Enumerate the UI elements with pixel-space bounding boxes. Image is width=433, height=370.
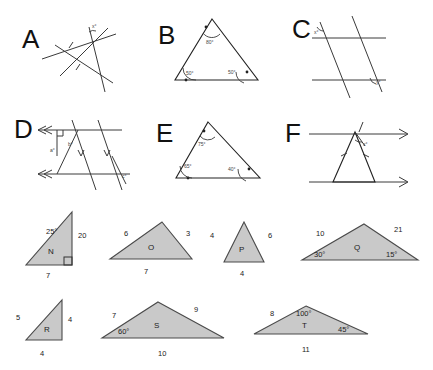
triangle-O-figure: 6 3 7 O [100,212,210,280]
triangle-T-figure: 8 100° 45° 11 T [240,292,380,364]
triangle-Q: 10 21 30° 15° Q [288,212,433,280]
diagram-B-angle-bottom-left: 50° [186,70,194,76]
triangle-N-angle-top: 25° [46,227,57,236]
worksheet-canvas: A x° B 80° 50 [0,0,433,370]
diagram-D-letter: D [14,116,33,142]
triangle-S-figure: 7 9 60° 10 S [96,292,232,364]
diagram-B-figure: 80° 50° 50° [150,0,290,108]
diagram-D-angle-left: a° [50,147,55,153]
diagram-B-angle-apex: 80° [206,39,214,45]
diagram-D: D a° b° c° [0,106,150,206]
triangle-R-figure: 5 4 4 R [14,288,98,364]
triangle-R-side-right: 4 [68,315,72,324]
triangle-S-side-right: 9 [194,305,198,314]
triangle-P-side-right: 6 [268,231,272,240]
diagram-F-figure: x° [285,106,433,206]
triangle-T-side-left: 8 [270,309,274,318]
diagram-C-angle-upper-left: x° [314,29,319,35]
triangle-Q-side-left: 10 [316,229,324,238]
diagram-E-angle-apex: 75° [198,141,206,147]
triangle-T: 8 100° 45° 11 T [240,292,380,364]
triangle-O-side-bottom: 7 [144,267,148,276]
triangle-Q-side-right: 21 [394,225,402,234]
triangle-S-label: S [154,321,159,330]
triangle-T-side-bottom: 11 [302,345,310,354]
diagram-D-angle-lower-right: c° [122,173,127,179]
diagram-A-letter: A [22,26,39,52]
triangle-T-angle-apex: 100° [296,309,312,318]
triangle-O-side-right: 3 [186,229,190,238]
triangle-R-label: R [44,325,50,334]
triangle-P-label: P [239,245,244,254]
diagram-E-letter: E [156,120,173,146]
triangle-S-angle-bottom-left: 60° [118,327,129,336]
diagram-B-letter: B [158,22,175,48]
diagram-E-angle-bottom-left: 65° [184,163,192,169]
triangle-R-side-bottom: 4 [40,349,44,358]
triangle-S: 7 9 60° 10 S [96,292,232,364]
triangle-Q-label: Q [354,243,360,252]
triangle-P-side-left: 4 [210,231,214,240]
triangle-Q-angle-bottom-left: 30° [314,250,325,259]
diagram-B: B 80° 50° 50° [150,0,290,108]
triangle-N-figure: 25° 20 7 N [18,208,104,280]
diagram-A-angle-x: x° [92,23,97,29]
triangle-N: 25° 20 7 N [18,208,104,280]
diagram-B-angle-bottom-right: 50° [228,69,236,75]
triangle-Q-figure: 10 21 30° 15° Q [288,212,433,280]
triangle-O-label: O [148,243,154,252]
triangle-N-side-bottom: 7 [46,271,50,280]
diagram-F-angle-apex: x° [363,141,368,147]
diagram-A-figure: x° [0,0,150,108]
diagram-C: C x° y° [290,0,433,108]
diagram-C-figure: x° y° [290,0,433,108]
triangle-N-side-right: 20 [78,231,86,240]
triangle-T-label: T [302,321,307,330]
triangle-S-side-left: 7 [112,311,116,320]
diagram-E: E 75° 65° 40° [150,106,290,206]
triangle-T-angle-bottom-right: 45° [338,325,349,334]
triangle-R-side-left: 5 [16,313,20,322]
triangle-P-side-bottom: 4 [240,269,244,278]
triangle-P-figure: 4 6 4 P [202,214,282,282]
diagram-C-letter: C [292,16,311,42]
diagram-E-angle-bottom-right: 40° [228,166,236,172]
triangle-P: 4 6 4 P [202,214,282,282]
triangle-O: 6 3 7 O [100,212,210,280]
diagram-F: F x° [285,106,433,206]
triangle-S-side-bottom: 10 [158,349,166,358]
diagram-F-letter: F [285,120,301,146]
triangle-R: 5 4 4 R [14,288,98,364]
triangle-O-side-left: 6 [124,229,128,238]
triangle-N-label: N [48,247,54,256]
diagram-D-angle-center: b° [68,141,73,147]
triangle-Q-angle-bottom-right: 15° [386,250,397,259]
diagram-C-angle-lower-right: y° [376,79,381,85]
diagram-A: A x° [0,0,150,108]
